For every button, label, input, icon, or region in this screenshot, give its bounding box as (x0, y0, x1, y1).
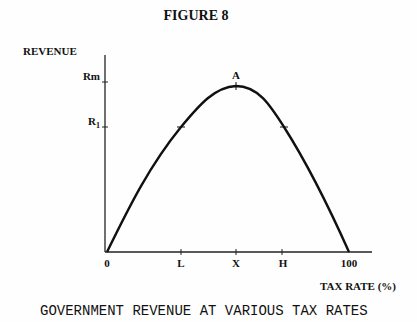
x-tick-x: X (216, 257, 256, 269)
chart-plot (0, 0, 417, 322)
x-tick-100: 100 (329, 257, 369, 269)
figure: FIGURE 8 REVENUE Rm R1 A 0 L X H 100 TAX… (0, 0, 417, 322)
revenue-curve (107, 86, 349, 252)
x-tick-l: L (161, 257, 201, 269)
x-tick-h: H (263, 257, 303, 269)
x-axis-label: TAX RATE (%) (320, 280, 396, 292)
figure-caption: GOVERNMENT REVENUE AT VARIOUS TAX RATES (40, 303, 368, 319)
x-tick-0: 0 (87, 257, 127, 269)
